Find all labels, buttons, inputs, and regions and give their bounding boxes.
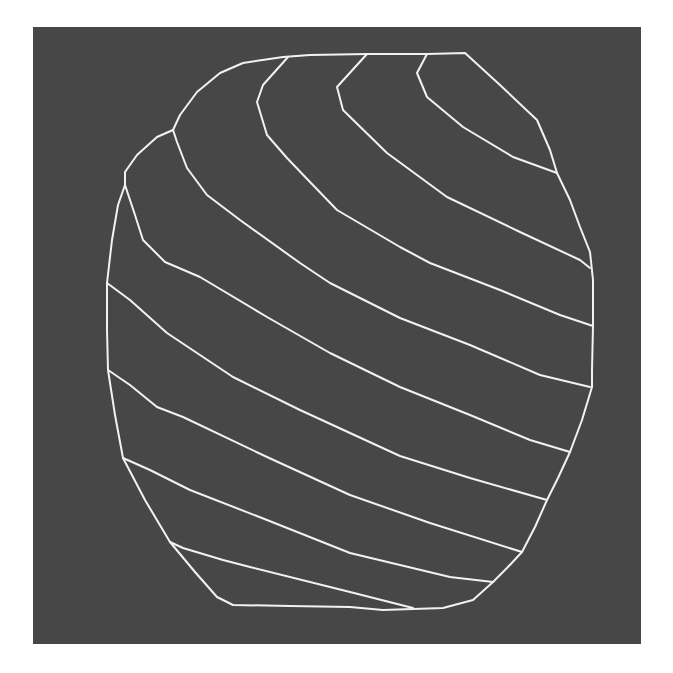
- contour-line-7: [108, 370, 522, 552]
- contour-line-2: [337, 54, 590, 268]
- contour-svg: [0, 0, 673, 673]
- contour-lines: [107, 54, 593, 608]
- region-boundary: [107, 53, 593, 610]
- contour-line-9: [170, 542, 413, 608]
- contour-line-6: [107, 283, 547, 500]
- region-outline: [107, 53, 593, 610]
- contour-line-3: [257, 57, 593, 326]
- contour-line-4: [173, 130, 590, 387]
- contour-figure: [0, 0, 673, 673]
